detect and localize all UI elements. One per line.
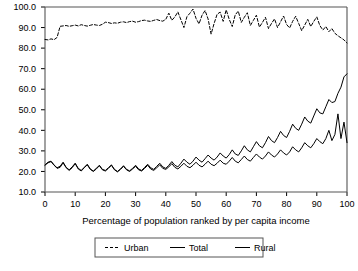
legend: UrbanTotalRural (95, 238, 276, 257)
x-tick-label: 90 (312, 199, 322, 209)
x-tick-label: 70 (251, 199, 261, 209)
y-tick-label: 10.0 (18, 187, 36, 197)
legend-label-total: Total (189, 243, 208, 253)
y-tick-label: 80.0 (18, 43, 36, 53)
series-line-total (45, 74, 347, 172)
x-tick-label: 50 (191, 199, 201, 209)
legend-label-urban: Urban (124, 243, 149, 253)
x-tick-label: 30 (131, 199, 141, 209)
y-tick-label: 50.0 (18, 105, 36, 115)
y-tick-label: 20.0 (18, 167, 36, 177)
x-axis-ticks (45, 192, 347, 196)
y-tick-label: 100.0 (13, 2, 36, 12)
x-tick-label: 80 (282, 199, 292, 209)
y-tick-label: 30.0 (18, 146, 36, 156)
y-tick-label: 90.0 (18, 23, 36, 33)
y-tick-label: 70.0 (18, 64, 36, 74)
x-tick-label: 40 (161, 199, 171, 209)
legend-label-rural: Rural (254, 243, 276, 253)
y-axis-tick-labels: 10.020.030.040.050.060.070.080.090.0100.… (13, 2, 36, 197)
y-tick-label: 60.0 (18, 84, 36, 94)
x-tick-label: 20 (100, 199, 110, 209)
chart-svg: 10.020.030.040.050.060.070.080.090.0100.… (0, 0, 358, 271)
series-line-rural (45, 114, 347, 172)
x-axis-tick-labels: 0102030405060708090100 (42, 199, 354, 209)
x-tick-label: 60 (221, 199, 231, 209)
x-tick-label: 0 (42, 199, 47, 209)
x-axis-title: Percentage of population ranked by per c… (82, 215, 310, 226)
data-series-group (45, 9, 347, 172)
x-tick-label: 10 (70, 199, 80, 209)
x-tick-label: 100 (339, 199, 354, 209)
y-tick-label: 40.0 (18, 126, 36, 136)
chart-container: 10.020.030.040.050.060.070.080.090.0100.… (0, 0, 358, 271)
y-axis-ticks (41, 7, 45, 192)
plot-frame (45, 7, 347, 192)
series-line-urban (45, 9, 347, 43)
